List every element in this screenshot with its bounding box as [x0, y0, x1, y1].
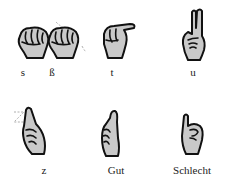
sign-label: Schlecht: [173, 165, 211, 176]
index-finger-zigzag-hand-icon: [12, 104, 54, 160]
sign-label: u: [190, 67, 196, 78]
sign-label: s: [21, 67, 25, 78]
sign-label: ß: [49, 67, 55, 78]
pinky-up-hand-icon: [178, 112, 208, 158]
sign-label: Gut: [108, 165, 125, 176]
thumbs-up-hand-icon: [98, 108, 128, 160]
sign-label: z: [42, 165, 47, 176]
fist-hand-motion-icon: [44, 20, 88, 64]
thumb-between-fingers-hand-icon: [100, 20, 140, 62]
sign-label: t: [110, 67, 113, 78]
two-fingers-up-hand-icon: [180, 8, 210, 64]
